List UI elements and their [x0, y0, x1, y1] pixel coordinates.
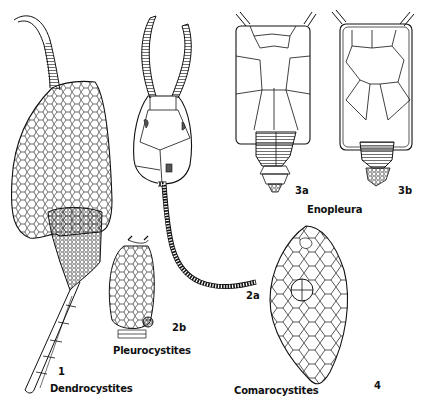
figure-2-genus-label: Pleurocystites: [113, 345, 191, 356]
figure-2a-number: 2a: [246, 290, 260, 301]
figure-3a-enopleura: [236, 12, 316, 192]
figure-1-dendrocystites: [12, 16, 112, 393]
figure-3b-number: 3b: [398, 185, 412, 196]
figure-4-number: 4: [374, 380, 381, 391]
figure-3b-enopleura: [332, 10, 414, 186]
figure-2b-number: 2b: [172, 322, 186, 333]
figure-1-genus-label: Dendrocystites: [50, 383, 132, 394]
fossil-plate-illustration: [0, 0, 422, 401]
figure-4-comarocystites: [270, 226, 348, 384]
figure-2b-pleurocystites: [109, 236, 154, 338]
figure-1-number: 1: [58, 366, 65, 377]
figure-3-genus-label: Enopleura: [307, 204, 362, 215]
figure-3a-number: 3a: [295, 185, 309, 196]
figure-4-genus-label: Comarocystites: [234, 385, 319, 396]
